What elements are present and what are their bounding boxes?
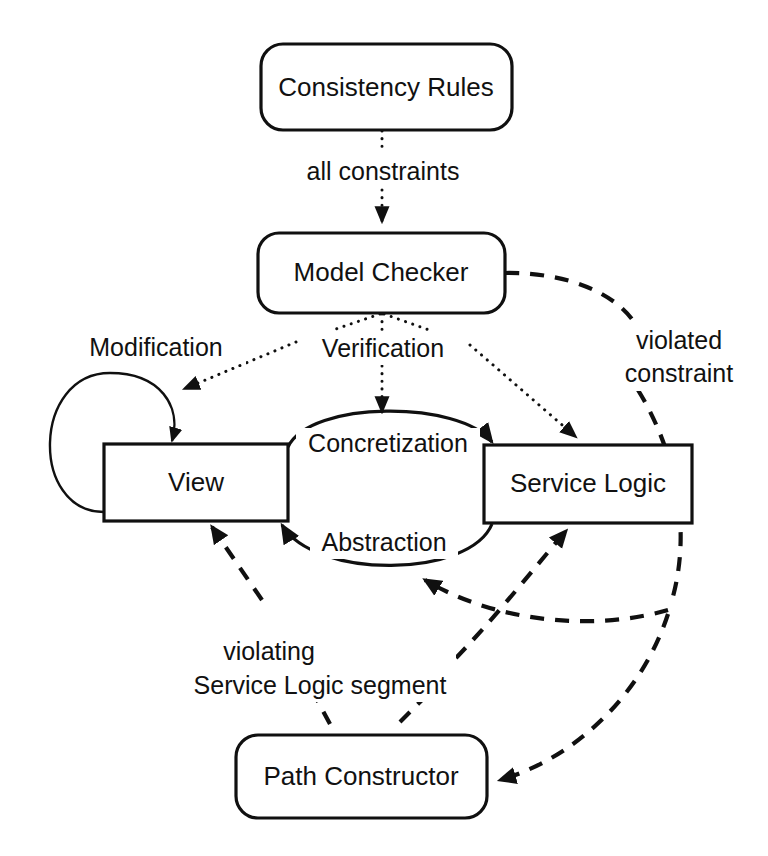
violated-constraint-label-line1: violated: [636, 326, 722, 354]
node-service-logic[interactable]: Service Logic: [484, 445, 692, 523]
view-label: View: [168, 467, 224, 497]
concretization-label: Concretization: [308, 429, 468, 457]
diagram-canvas: Consistency Rules Model Checker View Ser…: [0, 0, 768, 856]
modification-label: Modification: [89, 333, 222, 361]
node-view[interactable]: View: [104, 444, 288, 521]
abstraction-label: Abstraction: [321, 528, 446, 556]
edge-label-modification: Modification: [66, 332, 246, 364]
violating-segment-label-line2: Service Logic segment: [194, 671, 447, 699]
architecture-diagram-svg: Consistency Rules Model Checker View Ser…: [0, 0, 768, 856]
node-path-constructor[interactable]: Path Constructor: [236, 735, 487, 818]
violated-constraint-label-line2: constraint: [625, 359, 733, 387]
service-logic-label: Service Logic: [510, 468, 666, 498]
path-constructor-label: Path Constructor: [263, 761, 458, 791]
model-checker-label: Model Checker: [294, 257, 469, 287]
node-consistency-rules[interactable]: Consistency Rules: [261, 44, 512, 130]
edge-verification-right: [384, 314, 576, 437]
all-constraints-label: all constraints: [307, 157, 460, 185]
edge-label-violating-segment: violating Service Logic segment: [188, 636, 456, 702]
edge-label-verification: Verification: [311, 333, 456, 365]
consistency-rules-label: Consistency Rules: [278, 72, 493, 102]
edge-path-to-abstraction-arc: [425, 580, 668, 621]
edge-label-abstraction: Abstraction: [310, 527, 458, 559]
edge-label-all-constraints: all constraints: [295, 156, 471, 188]
violating-segment-label-line1: violating: [223, 637, 315, 665]
edge-label-concretization: Concretization: [296, 428, 480, 460]
edge-label-violated-constraint: violated constraint: [608, 325, 748, 391]
node-model-checker[interactable]: Model Checker: [258, 233, 505, 313]
verification-label: Verification: [322, 334, 444, 362]
